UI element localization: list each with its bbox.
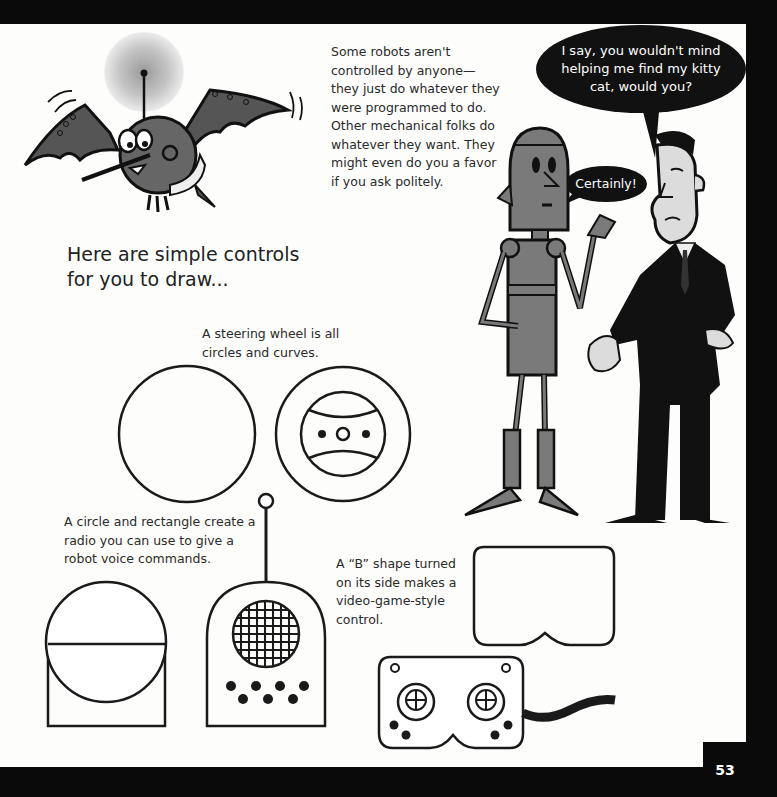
steering-wheel-caption: A steering wheel is all circles and curv… bbox=[202, 325, 382, 362]
radio-step2 bbox=[205, 490, 330, 730]
man-in-suit-illustration bbox=[585, 125, 745, 525]
controller-step1 bbox=[470, 545, 620, 650]
radio-step1 bbox=[45, 580, 170, 730]
steering-wheel-step2 bbox=[275, 362, 420, 507]
steering-wheel-step1 bbox=[115, 362, 260, 507]
controller-step2 bbox=[375, 655, 655, 755]
game-controller-caption: A “B” shape turned on its side makes a v… bbox=[336, 555, 461, 629]
man-speech-text: I say, you wouldn't mind helping me find… bbox=[558, 42, 724, 96]
heading-line-2: for you to draw... bbox=[67, 267, 299, 292]
section-heading: Here are simple controls for you to draw… bbox=[67, 242, 299, 292]
heading-line-1: Here are simple controls bbox=[67, 242, 299, 267]
bat-robot-illustration bbox=[0, 0, 320, 230]
page-number: 53 bbox=[703, 742, 777, 797]
